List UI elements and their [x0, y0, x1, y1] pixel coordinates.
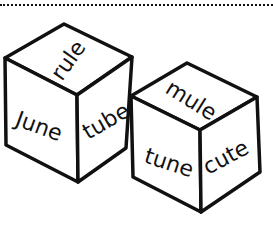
worksheet-illustration: rule June tube mule tune cute	[0, 0, 273, 230]
dice-drawing: rule June tube mule tune cute	[0, 0, 273, 230]
